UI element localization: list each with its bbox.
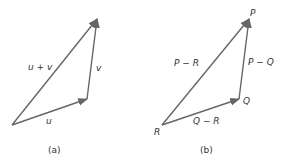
point-p: P xyxy=(250,8,256,18)
caption-a: (a) xyxy=(48,145,61,155)
label-p-minus-r: P − R xyxy=(174,58,199,68)
vector-v xyxy=(87,19,97,99)
figure-b: Q − R P − Q P − R P Q R (b) xyxy=(154,8,274,155)
label-q-minus-r: Q − R xyxy=(193,116,220,126)
point-q: Q xyxy=(243,96,250,106)
label-p-minus-q: P − Q xyxy=(248,57,274,67)
vector-u-plus-v xyxy=(12,19,97,125)
vector-p-minus-r xyxy=(162,19,249,125)
figure-a: u v u + v (a) xyxy=(12,19,102,155)
label-u-plus-v: u + v xyxy=(28,62,53,72)
label-v: v xyxy=(96,63,102,73)
vector-diagram: u v u + v (a) Q − R P − Q P − R P Q R (b… xyxy=(0,0,284,163)
label-u: u xyxy=(46,116,52,126)
point-r: R xyxy=(154,127,160,137)
caption-b: (b) xyxy=(200,145,213,155)
